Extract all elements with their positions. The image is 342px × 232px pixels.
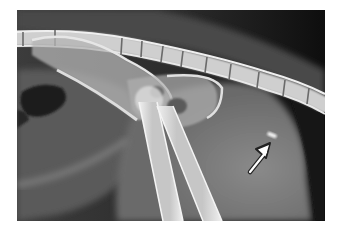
radiograph-svg	[17, 10, 325, 221]
radiograph-image	[17, 10, 325, 221]
